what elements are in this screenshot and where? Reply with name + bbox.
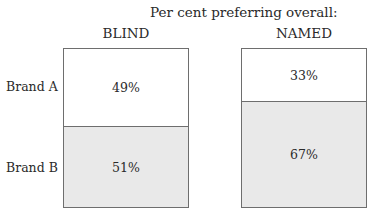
segment-named-brand-b: 67%	[242, 101, 366, 207]
row-label-brand-a: Brand A	[6, 79, 58, 94]
column-label-blind: BLIND	[63, 25, 189, 41]
column-label-named: NAMED	[241, 25, 367, 41]
value-label: 67%	[290, 147, 318, 162]
value-label: 33%	[290, 68, 318, 83]
value-label: 49%	[112, 80, 140, 95]
bar-blind: 49% 51%	[63, 48, 189, 208]
chart-title-text: Per cent preferring overall:	[150, 4, 338, 20]
row-label-brand-b: Brand B	[6, 160, 58, 175]
segment-named-brand-a: 33%	[242, 49, 366, 101]
segment-blind-brand-a: 49%	[64, 49, 188, 126]
segment-blind-brand-b: 51%	[64, 126, 188, 207]
bar-named: 33% 67%	[241, 48, 367, 208]
value-label: 51%	[112, 160, 140, 175]
